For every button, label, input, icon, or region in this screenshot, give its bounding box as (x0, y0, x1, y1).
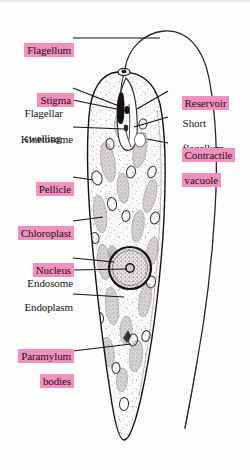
euglena-diagram: Flagellum Stigma Flagellar swelling Kine… (0, 0, 250, 470)
kinetosome-body (124, 125, 128, 132)
label-chloroplast: Chloroplast (4, 214, 74, 252)
label-paramylum-bodies: Paramylum bodies (4, 337, 74, 400)
label-kinetosome: Kinetosome (6, 120, 74, 158)
label-endoplasm: Endoplasm (4, 288, 74, 326)
endosome-body (126, 264, 134, 272)
nucleus-body (109, 247, 151, 289)
label-contractile-vacuole: Contractile vacuole (171, 136, 250, 199)
label-flagellum: Flagellum (8, 31, 74, 69)
apical-pore (121, 70, 126, 73)
long-flagellum-taper (185, 362, 197, 428)
label-pellicle: Pellicle (8, 170, 74, 208)
contractile-vacuole-body (135, 133, 146, 147)
